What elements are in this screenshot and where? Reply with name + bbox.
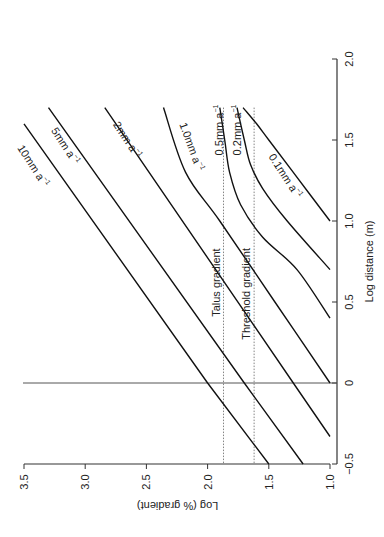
x-tick-label: 2.0 [343, 51, 355, 66]
series-label-2: 2mm a−1 [111, 119, 145, 161]
x-tick-label: 0 [343, 380, 355, 386]
series-line-5 [237, 108, 330, 270]
series-label-5: 0.2mm a−1 [230, 105, 243, 156]
series-label-4: 0.5mm a−1 [212, 105, 225, 156]
y-tick-label: 2.0 [202, 474, 214, 489]
talus-gradient-label: Talus gradient [210, 248, 222, 317]
series-label-6: 0.1mm a−1 [266, 151, 305, 201]
y-tick-label: 1.5 [263, 474, 275, 489]
series-line-1 [49, 108, 304, 464]
y-tick-label: 3.5 [18, 474, 30, 489]
y-tick-label: 2.5 [140, 474, 152, 489]
chart: 1.01.52.02.53.03.5Log (% gradient)−0.500… [0, 0, 384, 537]
x-tick-label: −0.5 [343, 453, 355, 475]
x-axis-label: Log distance (m) [363, 221, 375, 303]
series-label-0: 10mm a−1 [15, 142, 52, 189]
labels: Talus gradientThreshold gradient10mm a−1… [15, 105, 305, 340]
y-tick-label: 3.0 [79, 474, 91, 489]
x-tick-label: 0.5 [343, 294, 355, 309]
x-tick-label: 1.0 [343, 213, 355, 228]
threshold-gradient-label: Threshold gradient [240, 248, 252, 340]
series-line-6 [243, 108, 330, 221]
y-tick-label: 1.0 [324, 474, 336, 489]
axes: 1.01.52.02.53.03.5Log (% gradient)−0.500… [18, 51, 375, 512]
y-axis-label: Log (% gradient) [137, 500, 218, 512]
x-tick-label: 1.5 [343, 132, 355, 147]
series-lines [24, 108, 330, 464]
